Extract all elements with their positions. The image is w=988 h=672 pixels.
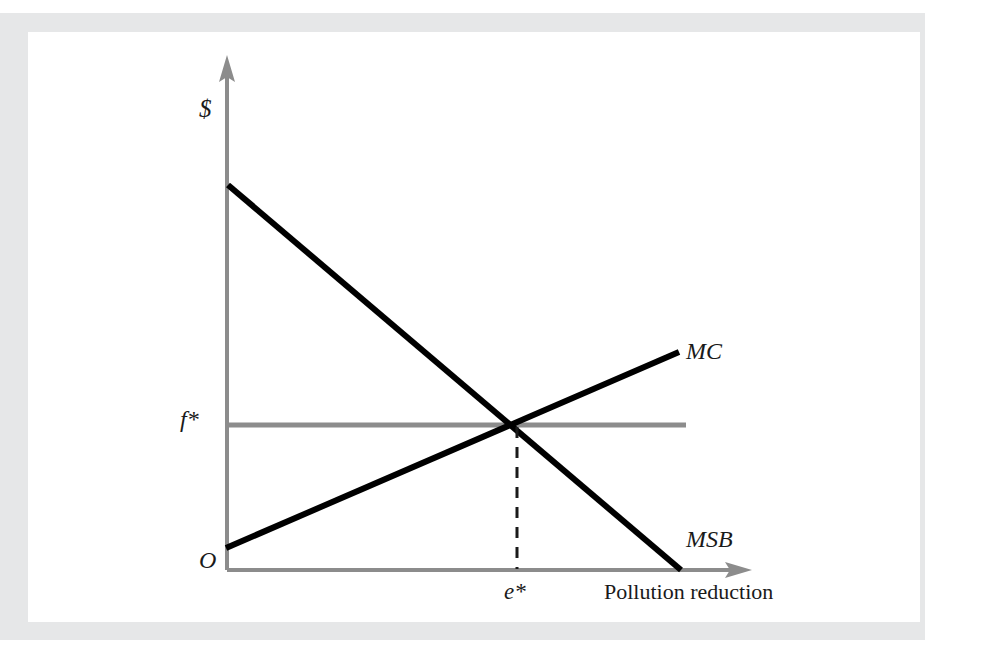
curve-label-msb: MSB [686, 527, 733, 551]
economics-diagram [0, 0, 988, 672]
price-line-label-fstar: f* [180, 407, 199, 431]
figure-page: $ O f* e* MC MSB Pollution reduction [0, 0, 988, 672]
y-axis-label: $ [199, 96, 212, 121]
axes-group [219, 55, 752, 578]
curve-label-mc: MC [686, 339, 722, 363]
origin-label: O [199, 548, 216, 572]
diagram-svg [0, 0, 988, 672]
x-axis-label: Pollution reduction [604, 581, 773, 603]
curve-mc [226, 352, 679, 548]
quantity-line-label-estar: e* [504, 580, 526, 603]
